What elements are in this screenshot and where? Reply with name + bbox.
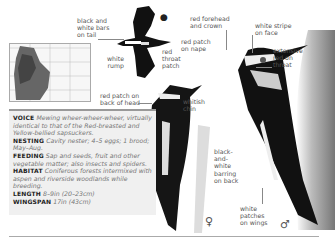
nesting-entry: NESTINGCavity nester; 4–5 eggs; 1 brood;… xyxy=(13,137,152,152)
bottom-divider xyxy=(9,236,319,237)
wingspan-entry: WINGSPAN17in (43cm) xyxy=(13,198,152,206)
male-sapsucker-illustration xyxy=(208,30,335,230)
pointer-line xyxy=(252,35,253,53)
label-red-throat-patch: red throat patch xyxy=(162,48,181,70)
female-symbol: ♀ xyxy=(205,215,213,228)
feeding-label: FEEDING xyxy=(13,152,44,159)
pointer-line xyxy=(98,39,124,40)
label-red-forehead: red forehead and crown xyxy=(190,15,230,29)
nesting-label: NESTING xyxy=(13,137,44,144)
label-white-stripe-face: white stripe on face xyxy=(255,22,292,36)
length-entry: LENGTH8–9in (20–23cm) xyxy=(13,190,152,198)
length-text: 8–9in (20–23cm) xyxy=(43,190,95,197)
wingspan-text: 17in (43cm) xyxy=(53,198,91,205)
habitat-label: HABITAT xyxy=(13,167,43,174)
pointer-line xyxy=(262,188,263,204)
wingspan-label: WINGSPAN xyxy=(13,198,51,205)
voice-entry: VOICEMewing wheer-wheer-wheer, virtually… xyxy=(13,114,152,137)
species-info-box: VOICEMewing wheer-wheer-wheer, virtually… xyxy=(9,109,156,215)
pointer-line xyxy=(138,103,152,104)
label-whitish-chin: whitish chin xyxy=(183,98,205,112)
habitat-entry: HABITATConiferous forests intermixed wit… xyxy=(13,167,152,190)
label-tail-bars: black and white bars on tail xyxy=(77,17,109,39)
label-extensive-red-throat: extensive red on throat xyxy=(273,47,303,69)
length-label: LENGTH xyxy=(13,190,41,197)
label-barring-back: black- and- white barring on back xyxy=(214,148,238,184)
label-red-patch-back-head: red patch on back of head xyxy=(100,92,140,106)
habitat-icon: ● xyxy=(160,14,168,21)
feeding-entry: FEEDINGSap and seeds, fruit and other ve… xyxy=(13,152,152,167)
label-white-patches-wings: white patches on wings xyxy=(240,205,268,227)
label-red-patch-nape: red patch on nape xyxy=(181,38,211,52)
pointer-line xyxy=(256,67,272,68)
label-white-rump: white rump xyxy=(107,55,124,69)
voice-label: VOICE xyxy=(13,114,34,121)
range-map xyxy=(9,43,91,102)
male-symbol: ♂ xyxy=(280,218,290,231)
pointer-line xyxy=(226,30,227,50)
range-map-graphic xyxy=(10,44,90,101)
